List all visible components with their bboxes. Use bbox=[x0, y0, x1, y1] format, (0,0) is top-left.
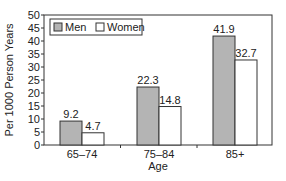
bar-value-label: 32.7 bbox=[235, 47, 256, 59]
x-axis: 65–7475–8485+ bbox=[67, 145, 245, 160]
x-tick-label: 75–84 bbox=[144, 148, 175, 160]
bar-men bbox=[60, 121, 82, 145]
x-tick-label: 65–74 bbox=[67, 148, 98, 160]
x-tick-label: 85+ bbox=[226, 148, 245, 160]
bar-value-label: 9.2 bbox=[63, 108, 78, 120]
y-tick-label: 15 bbox=[28, 100, 40, 112]
y-tick-label: 40 bbox=[28, 35, 40, 47]
y-tick-label: 25 bbox=[28, 74, 40, 86]
bar-men bbox=[213, 36, 235, 145]
bar-women bbox=[235, 60, 257, 145]
legend-women-label: Women bbox=[107, 21, 145, 33]
x-axis-label: Age bbox=[148, 160, 168, 172]
y-tick-label: 0 bbox=[34, 139, 40, 151]
y-tick-label: 45 bbox=[28, 22, 40, 34]
legend-men-swatch bbox=[54, 23, 62, 31]
y-axis: 05101520253035404550 bbox=[28, 9, 44, 151]
legend-women-swatch bbox=[96, 23, 104, 31]
bar-men bbox=[137, 87, 159, 145]
bar-value-label: 22.3 bbox=[137, 74, 158, 86]
legend: Men Women bbox=[50, 19, 145, 35]
y-tick-label: 50 bbox=[28, 9, 40, 21]
y-tick-label: 35 bbox=[28, 48, 40, 60]
bar-value-label: 4.7 bbox=[85, 120, 100, 132]
bar-chart: 05101520253035404550 9.24.722.314.841.93… bbox=[0, 0, 286, 181]
bar-value-label: 14.8 bbox=[159, 94, 180, 106]
bar-women bbox=[159, 107, 181, 145]
bar-women bbox=[82, 133, 104, 145]
y-tick-label: 30 bbox=[28, 61, 40, 73]
bars-group: 9.24.722.314.841.932.7 bbox=[60, 23, 257, 145]
y-axis-label: Per 1000 Person Years bbox=[3, 23, 15, 137]
legend-men-label: Men bbox=[65, 21, 86, 33]
y-tick-label: 10 bbox=[28, 113, 40, 125]
bar-value-label: 41.9 bbox=[213, 23, 234, 35]
y-tick-label: 5 bbox=[34, 126, 40, 138]
y-tick-label: 20 bbox=[28, 87, 40, 99]
